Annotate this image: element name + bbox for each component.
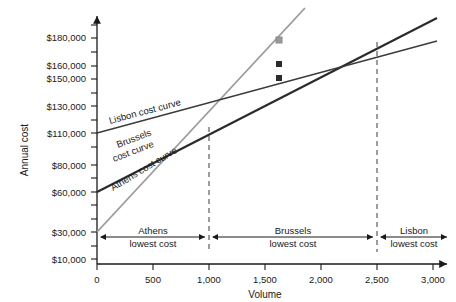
y-tick-label: $10,000	[52, 254, 86, 265]
intersection-guides	[209, 42, 377, 252]
brussels-region-label-line2: lowest cost	[270, 238, 317, 249]
y-axis-ticks	[91, 25, 97, 259]
lisbon-region-label-line2: lowest cost	[391, 238, 438, 249]
y-tick-label: $180,000	[46, 32, 86, 43]
x-axis-title: Volume	[248, 289, 282, 300]
athens-region-label-line1: Athens	[138, 225, 168, 236]
y-tick-label: $160,000	[46, 60, 86, 71]
x-tick-label: 1,500	[253, 274, 277, 285]
y-tick-label: $110,000	[47, 128, 86, 139]
x-tick-label: 0	[94, 274, 99, 285]
region-annotations: Athens lowest cost Brussels lowest cost …	[101, 225, 447, 249]
y-tick-label: $30,000	[52, 227, 86, 238]
chart-svg: $180,000 $160,000 $150,000 $130,000 $110…	[0, 0, 456, 302]
y-axis-title: Annual cost	[19, 124, 30, 176]
brussels-region-label-line1: Brussels	[275, 225, 312, 236]
x-tick-label: 3,000	[421, 274, 445, 285]
lisbon-region-label-line1: Lisbon	[400, 225, 428, 236]
athens-data-marker	[276, 37, 282, 43]
brussels-data-marker	[276, 75, 282, 81]
x-tick-label: 2,500	[365, 274, 389, 285]
y-tick-label: $150,000	[46, 73, 86, 84]
x-tick-label: 500	[145, 274, 161, 285]
y-tick-label: $80,000	[52, 160, 86, 171]
y-tick-label: $60,000	[52, 187, 86, 198]
x-tick-label: 1,000	[197, 274, 221, 285]
lisbon-data-marker	[276, 61, 282, 67]
x-tick-label: 2,000	[309, 274, 333, 285]
cost-volume-chart: $180,000 $160,000 $150,000 $130,000 $110…	[0, 0, 456, 302]
x-axis-ticks	[97, 264, 433, 270]
athens-region-label-line2: lowest cost	[130, 238, 177, 249]
lisbon-cost-curve	[97, 41, 437, 133]
lisbon-curve-label: Lisbon cost curve	[108, 96, 182, 126]
y-tick-label: $130,000	[46, 101, 86, 112]
